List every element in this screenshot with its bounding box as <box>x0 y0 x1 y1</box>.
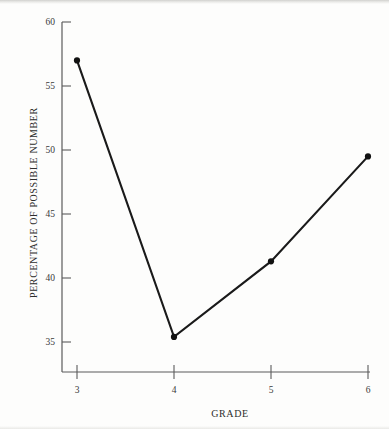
y-axis-title: PERCENTAGE OF POSSIBLE NUMBER <box>28 107 39 298</box>
data-series-line <box>77 60 368 336</box>
y-tick-label-45: 45 <box>46 209 56 219</box>
y-tick-label-35: 35 <box>46 337 56 347</box>
x-axis-tick-labels: 3 4 5 6 <box>75 385 371 395</box>
data-point-markers <box>74 57 371 340</box>
y-tick-label-40: 40 <box>46 273 56 283</box>
x-axis-title: GRADE <box>211 408 248 419</box>
data-point-4 <box>171 334 177 340</box>
y-tick-label-60: 60 <box>46 17 56 27</box>
y-axis-tick-labels: 60 55 50 45 40 35 <box>46 17 56 347</box>
data-point-3 <box>74 57 80 63</box>
x-tick-label-3: 3 <box>75 385 80 395</box>
chart-page: 60 55 50 45 40 35 3 4 5 6 PERCENTAGE OF … <box>0 0 389 429</box>
data-point-6 <box>365 153 371 159</box>
y-tick-label-50: 50 <box>46 145 56 155</box>
y-tick-label-55: 55 <box>46 81 56 91</box>
x-tick-label-5: 5 <box>269 385 274 395</box>
y-axis-ticks <box>62 22 71 342</box>
line-chart: 60 55 50 45 40 35 3 4 5 6 <box>0 0 389 429</box>
x-tick-label-6: 6 <box>366 385 371 395</box>
x-tick-label-4: 4 <box>172 385 177 395</box>
data-point-5 <box>268 258 274 264</box>
